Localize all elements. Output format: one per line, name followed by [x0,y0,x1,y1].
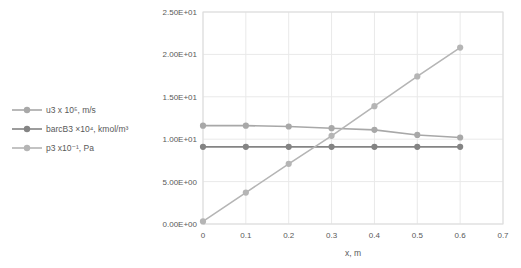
y-tick-label: 1.50E+01 [163,93,198,102]
legend-label-p3: p3 x10⁻¹, Pa [46,143,94,153]
data-point-u3 [457,134,463,140]
x-tick-label: 0.7 [497,231,509,240]
legend-item-u3[interactable]: u3 x 10⁵, m/s [12,105,128,115]
data-point-barcB3 [371,144,377,150]
chart-legend: u3 x 10⁵, m/sbarcB3 ×10⁴, kmol/m³p3 x10⁻… [12,105,128,153]
legend-marker-barcB3 [12,124,42,134]
x-tick-label: 0.5 [412,231,424,240]
x-tick-label: 0 [201,231,206,240]
x-tick-label: 0.4 [369,231,381,240]
data-point-u3 [414,132,420,138]
x-tick-label: 0.1 [240,231,252,240]
data-point-barcB3 [414,144,420,150]
data-point-p3 [328,133,334,139]
legend-label-barcB3: barcB3 ×10⁴, kmol/m³ [46,124,128,134]
y-tick-label: 1.00E+01 [163,135,198,144]
legend-marker-p3 [12,143,42,153]
legend-item-barcB3[interactable]: barcB3 ×10⁴, kmol/m³ [12,124,128,134]
data-point-u3 [286,123,292,129]
legend-item-p3[interactable]: p3 x10⁻¹, Pa [12,143,128,153]
data-point-barcB3 [243,144,249,150]
data-point-barcB3 [286,144,292,150]
legend-marker-u3 [12,105,42,115]
data-point-u3 [243,123,249,129]
x-tick-label: 0.2 [283,231,295,240]
data-point-barcB3 [457,144,463,150]
y-tick-label: 5.00E+00 [163,178,198,187]
data-point-u3 [200,123,206,129]
chart[interactable]: 0.00E+005.00E+001.00E+011.50E+012.00E+01… [0,0,521,268]
data-point-barcB3 [200,144,206,150]
data-point-p3 [286,161,292,167]
data-point-p3 [371,103,377,109]
x-tick-label: 0.3 [326,231,338,240]
data-point-p3 [457,45,463,51]
x-axis-title: x, m [345,248,361,258]
data-point-u3 [328,125,334,131]
data-point-u3 [371,127,377,133]
y-tick-label: 2.00E+01 [163,50,198,59]
y-tick-label: 0.00E+00 [163,220,198,229]
data-point-barcB3 [328,144,334,150]
data-point-p3 [243,190,249,196]
legend-label-u3: u3 x 10⁵, m/s [46,105,96,115]
y-tick-label: 2.50E+01 [163,8,198,17]
data-point-p3 [414,73,420,79]
data-point-p3 [200,218,206,224]
x-tick-label: 0.6 [455,231,467,240]
